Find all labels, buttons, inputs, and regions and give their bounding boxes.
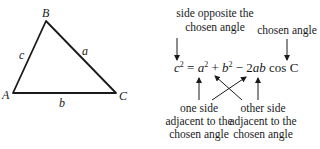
law-of-cosines-diagram: A B C c a b side opposite the chosen ang… [0, 0, 320, 149]
vertex-b-label: B [42, 6, 50, 20]
eq-cos: cos [266, 60, 290, 75]
side-a-label: a [82, 44, 88, 58]
vertex-a-label: A [1, 88, 10, 102]
eq-equals: = [184, 60, 198, 75]
side-c-label: c [19, 48, 25, 62]
adjacent-other-annotation: other side adjacent to the chosen angle [229, 102, 296, 141]
adjacent-other-line1: other side [240, 102, 285, 114]
arrow-diagonal-icon [215, 76, 242, 100]
eq-ab: ab [253, 60, 267, 75]
eq-angle: C [290, 60, 299, 75]
adjacent-one-annotation: one side adjacent to the chosen angle [165, 102, 232, 141]
chosen-line1: chosen angle [257, 24, 317, 37]
opposite-line2: chosen angle [185, 21, 245, 34]
chosen-angle-annotation: chosen angle [257, 24, 317, 60]
opposite-line1: side opposite the [176, 7, 253, 20]
law-of-cosines-equation: c2 = a2 + b2 − 2ab cos C [174, 60, 298, 75]
adjacent-other-line3: chosen angle [233, 128, 293, 141]
triangle-shape [13, 21, 116, 93]
adjacent-other-line2: adjacent to the [229, 115, 296, 128]
opposite-side-annotation: side opposite the chosen angle [176, 7, 253, 60]
adjacent-one-line2: adjacent to the [165, 115, 232, 128]
adjacent-one-line1: one side [180, 102, 218, 114]
adjacent-arrows [199, 76, 258, 100]
triangle: A B C c a b [1, 6, 128, 110]
side-b-label: b [59, 96, 65, 110]
eq-minus: − [232, 60, 246, 75]
adjacent-one-line3: chosen angle [169, 128, 229, 141]
eq-plus: + [208, 60, 222, 75]
vertex-c-label: C [119, 89, 128, 103]
